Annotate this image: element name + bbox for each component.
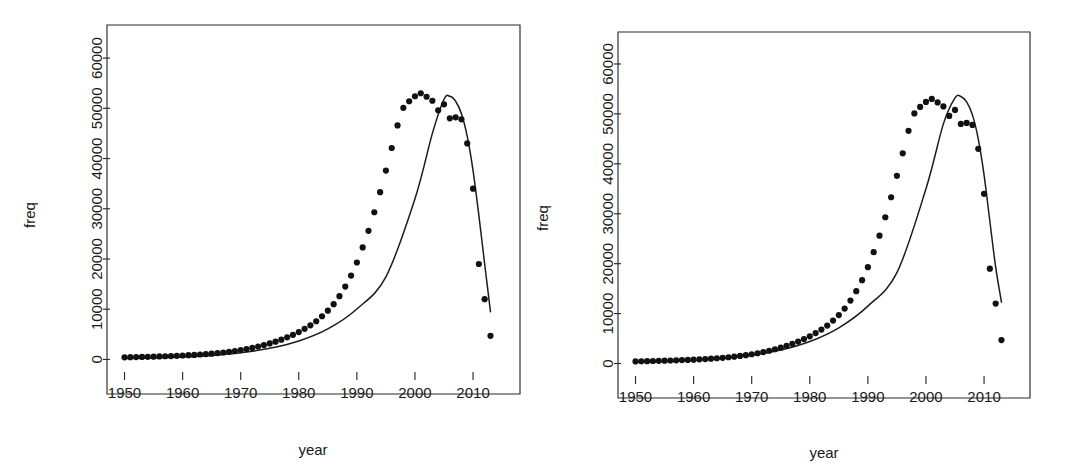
data-point <box>644 358 650 364</box>
y-tick-label: 10000 <box>600 293 617 335</box>
data-point <box>423 94 429 100</box>
data-point <box>888 194 894 200</box>
data-point <box>743 352 749 358</box>
y-tick-label: 20000 <box>89 238 106 280</box>
data-point <box>911 110 917 116</box>
x-tick-label: 1980 <box>793 388 826 405</box>
data-point <box>150 354 156 360</box>
data-point <box>238 347 244 353</box>
x-tick-label: 1970 <box>224 384 257 401</box>
data-point <box>696 356 702 362</box>
data-point <box>691 357 697 363</box>
data-point <box>929 96 935 102</box>
data-point <box>267 340 273 346</box>
data-point <box>940 103 946 109</box>
data-point <box>760 349 766 355</box>
data-point <box>859 277 865 283</box>
data-point <box>307 322 313 328</box>
data-point <box>371 209 377 215</box>
data-point <box>801 336 807 342</box>
data-point <box>209 351 215 357</box>
scatter-plot-left: 0100002000030000400005000060000 19501960… <box>0 0 535 476</box>
data-point <box>905 128 911 134</box>
data-point <box>830 317 836 323</box>
scatter-plot-right: 0100002000030000400005000060000 19501960… <box>535 0 1070 476</box>
data-point <box>882 214 888 220</box>
x-axis-left: 1950196019701980199020002010 <box>108 372 490 401</box>
y-tick-label: 50000 <box>89 87 106 129</box>
data-point <box>679 357 685 363</box>
data-point <box>969 122 975 128</box>
data-point <box>319 313 325 319</box>
data-point <box>650 358 656 364</box>
data-point <box>400 105 406 111</box>
data-point <box>981 191 987 197</box>
data-point <box>958 121 964 127</box>
data-points-left <box>121 90 493 360</box>
x-tick-label: 1960 <box>166 384 199 401</box>
fitted-curve-right <box>636 95 1002 362</box>
data-point <box>813 330 819 336</box>
data-point <box>667 357 673 363</box>
x-tick-label: 2000 <box>909 388 942 405</box>
data-point <box>993 301 999 307</box>
data-point <box>766 348 772 354</box>
data-point <box>354 259 360 265</box>
data-point <box>482 296 488 302</box>
data-point <box>121 354 127 360</box>
x-tick-label: 1990 <box>340 384 373 401</box>
data-point <box>731 354 737 360</box>
data-point <box>348 272 354 278</box>
data-point <box>900 150 906 156</box>
data-point <box>638 358 644 364</box>
data-point <box>278 337 284 343</box>
data-point <box>783 343 789 349</box>
x-tick-label: 1990 <box>851 388 884 405</box>
data-point <box>661 358 667 364</box>
data-point <box>226 349 232 355</box>
x-tick-label: 2000 <box>398 384 431 401</box>
figure-container: 0100002000030000400005000060000 19501960… <box>0 0 1071 476</box>
data-point <box>714 355 720 361</box>
y-tick-label: 30000 <box>89 188 106 230</box>
x-tick-label: 1970 <box>735 388 768 405</box>
data-point <box>336 293 342 299</box>
data-point <box>243 346 249 352</box>
data-point <box>458 116 464 122</box>
data-point <box>964 120 970 126</box>
data-point <box>435 107 441 113</box>
data-point <box>865 264 871 270</box>
data-point <box>290 332 296 338</box>
data-point <box>156 353 162 359</box>
data-point <box>296 329 302 335</box>
x-axis-title-right: year <box>809 444 838 461</box>
data-point <box>673 357 679 363</box>
data-point <box>772 346 778 352</box>
x-tick-label: 1950 <box>619 388 652 405</box>
data-point <box>284 334 290 340</box>
data-point <box>197 351 203 357</box>
data-point <box>749 351 755 357</box>
data-point <box>360 244 366 250</box>
x-axis-title-left: year <box>298 441 327 458</box>
data-point <box>168 353 174 359</box>
data-point <box>406 98 412 104</box>
data-point <box>139 354 145 360</box>
plot-frame-right <box>618 32 1030 398</box>
data-point <box>917 104 923 110</box>
data-point <box>470 186 476 192</box>
data-point <box>214 350 220 356</box>
data-point <box>447 115 453 121</box>
data-points-right <box>632 96 1004 365</box>
data-point <box>383 167 389 173</box>
data-point <box>656 358 662 364</box>
data-point <box>255 343 261 349</box>
x-tick-label: 2010 <box>456 384 489 401</box>
data-point <box>429 98 435 104</box>
data-point <box>946 113 952 119</box>
data-point <box>702 356 708 362</box>
y-tick-label: 60000 <box>89 37 106 79</box>
data-point <box>185 352 191 358</box>
data-point <box>847 298 853 304</box>
x-tick-label: 1960 <box>677 388 710 405</box>
